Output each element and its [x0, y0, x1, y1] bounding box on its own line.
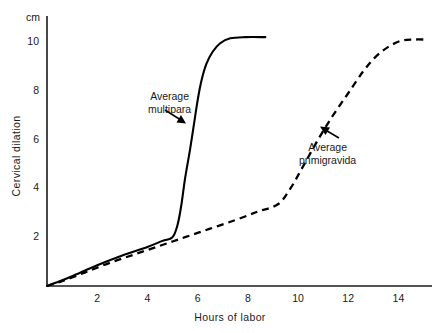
x-tick-label-2: 2 [82, 292, 112, 304]
y-tick-label-8: 8 [17, 84, 39, 96]
axes [46, 16, 432, 286]
annotation-multipara-line2: multipara [148, 103, 191, 116]
plot-canvas [0, 0, 440, 333]
series-line-average-multipara [47, 37, 265, 286]
y-tick-label-2: 2 [17, 230, 39, 242]
series-line-average-primigravida [47, 39, 426, 286]
annotation-arrowhead-multipara [177, 115, 187, 124]
x-tick-label-10: 10 [283, 292, 313, 304]
cervical-dilation-chart: cm Cervical dilation Hours of labor 2468… [0, 0, 440, 333]
y-tick-label-6: 6 [17, 133, 39, 145]
x-tick-label-14: 14 [383, 292, 413, 304]
x-tick-label-8: 8 [233, 292, 263, 304]
x-tick-label-6: 6 [183, 292, 213, 304]
data-series-group [47, 37, 426, 286]
y-tick-label-10: 10 [17, 35, 39, 47]
series-annotation-average-primigravida: Average primigravida [299, 141, 356, 166]
series-annotation-average-multipara: Average multipara [148, 90, 191, 115]
x-axis-title: Hours of labor [150, 311, 310, 323]
x-tick-label-4: 4 [132, 292, 162, 304]
y-axis-unit-label: cm [26, 11, 40, 23]
y-tick-label-4: 4 [17, 181, 39, 193]
y-axis-title: Cervical dilation [10, 96, 22, 216]
annotation-primigravida-line1: Average [299, 141, 356, 154]
x-tick-label-12: 12 [333, 292, 363, 304]
annotation-primigravida-line2: primigravida [299, 154, 356, 167]
annotation-multipara-line1: Average [148, 90, 191, 103]
